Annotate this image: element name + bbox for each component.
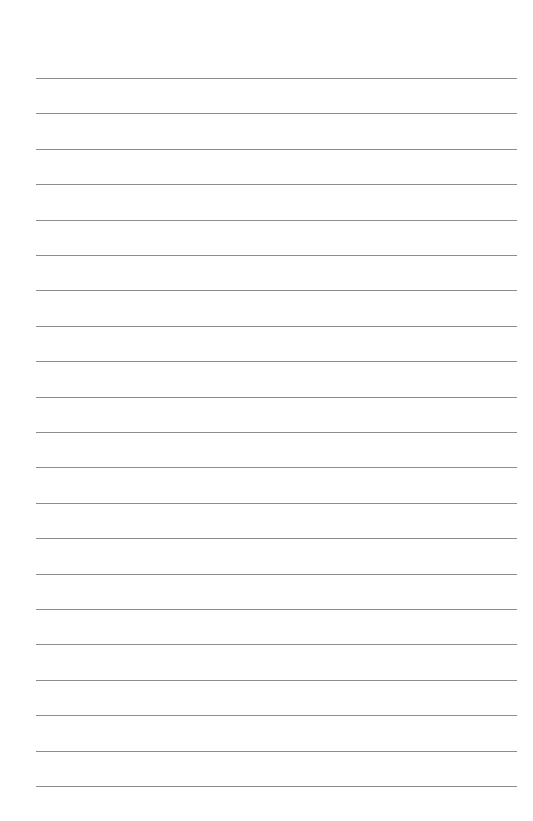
ruled-line (36, 290, 517, 291)
ruled-line (36, 751, 517, 752)
ruled-line (36, 361, 517, 362)
ruled-line (36, 78, 517, 79)
ruled-line (36, 113, 517, 114)
ruled-line (36, 644, 517, 645)
lined-paper-page (0, 0, 533, 821)
ruled-line (36, 467, 517, 468)
ruled-line (36, 574, 517, 575)
ruled-line (36, 184, 517, 185)
ruled-line (36, 397, 517, 398)
ruled-line (36, 786, 517, 787)
ruled-line (36, 149, 517, 150)
ruled-line (36, 326, 517, 327)
ruled-line (36, 538, 517, 539)
ruled-line (36, 503, 517, 504)
ruled-line (36, 220, 517, 221)
ruled-line (36, 609, 517, 610)
ruled-line (36, 680, 517, 681)
ruled-line (36, 255, 517, 256)
ruled-line (36, 432, 517, 433)
ruled-line (36, 715, 517, 716)
